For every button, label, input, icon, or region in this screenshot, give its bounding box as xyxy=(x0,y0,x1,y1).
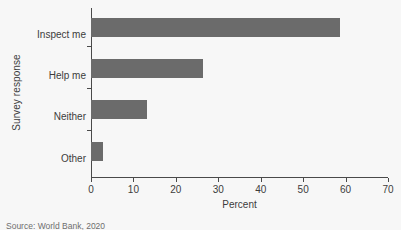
x-axis-tick-30 xyxy=(218,178,219,182)
y-axis-tick-label-inspect-me: Inspect me xyxy=(0,29,86,41)
bar-inspect-me[interactable] xyxy=(91,18,340,37)
x-axis-tick-10 xyxy=(133,178,134,182)
source-note: Source: World Bank, 2020 xyxy=(6,221,105,230)
y-axis-tick-label-neither: Neither xyxy=(0,111,86,123)
x-axis-tick-label-40: 40 xyxy=(241,184,281,196)
plot-area xyxy=(91,8,388,177)
y-axis-tick-label-other: Other xyxy=(0,153,86,165)
bar-other[interactable] xyxy=(91,142,103,161)
x-axis-tick-label-50: 50 xyxy=(283,184,323,196)
x-axis-tick-label-30: 30 xyxy=(198,184,238,196)
bar-chart-figure: Survey response Inspect me Help me Neith… xyxy=(0,0,401,230)
bar-help-me[interactable] xyxy=(91,59,203,78)
x-axis-tick-label-60: 60 xyxy=(326,184,366,196)
x-axis-tick-label-70: 70 xyxy=(368,184,401,196)
y-axis-tick-label-help-me: Help me xyxy=(0,70,86,82)
x-axis-title: Percent xyxy=(91,199,388,211)
x-axis-tick-label-20: 20 xyxy=(156,184,196,196)
bar-neither[interactable] xyxy=(91,100,147,119)
x-axis-tick-60 xyxy=(346,178,347,182)
x-axis-line xyxy=(91,177,388,178)
x-axis-tick-40 xyxy=(261,178,262,182)
x-axis-tick-label-10: 10 xyxy=(113,184,153,196)
x-axis-tick-20 xyxy=(176,178,177,182)
x-axis-tick-70 xyxy=(388,178,389,182)
x-axis-tick-0 xyxy=(91,173,92,182)
y-axis-tick-labels: Inspect me Help me Neither Other xyxy=(0,8,86,177)
x-axis-tick-label-0: 0 xyxy=(71,184,111,196)
x-axis-tick-50 xyxy=(303,178,304,182)
